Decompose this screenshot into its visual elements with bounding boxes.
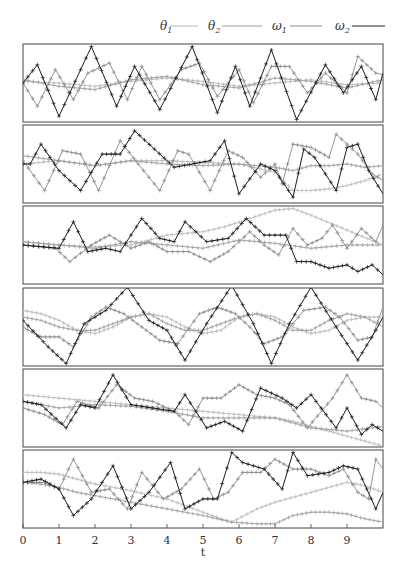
- panel-frame: [23, 288, 383, 366]
- x-tick-label: 6: [236, 534, 243, 547]
- x-tick-label: 3: [128, 534, 135, 547]
- panel-1: [21, 44, 383, 122]
- panel-3: [21, 206, 383, 284]
- x-tick-label: 0: [20, 534, 27, 547]
- figure: θ1θ2ω1ω2 0123456789t: [0, 0, 402, 572]
- legend-item-2: θ2: [208, 19, 262, 35]
- legend-label: θ1: [160, 19, 172, 35]
- x-tick-label: 2: [92, 534, 99, 547]
- x-axis-label: t: [201, 546, 206, 559]
- legend-item-3: ω1: [272, 19, 322, 35]
- panel-4: [21, 284, 383, 366]
- panel-frame: [23, 369, 383, 447]
- x-tick-label: 8: [308, 534, 315, 547]
- legend-label: ω2: [335, 19, 350, 35]
- x-tick-label: 4: [164, 534, 171, 547]
- legend: θ1θ2ω1ω2: [160, 19, 385, 35]
- x-tick-label: 1: [56, 534, 63, 547]
- legend-label: ω1: [272, 19, 287, 35]
- panel-2: [21, 125, 383, 203]
- panel-5: [21, 369, 383, 447]
- legend-item-4: ω2: [335, 19, 385, 35]
- x-tick-label: 9: [344, 534, 351, 547]
- panel-6: [21, 450, 383, 528]
- panels: [21, 44, 383, 528]
- legend-item-1: θ1: [160, 19, 198, 35]
- panel-frame: [23, 206, 383, 284]
- legend-label: θ2: [208, 19, 220, 35]
- x-tick-label: 7: [272, 534, 279, 547]
- x-axis: 0123456789t: [20, 524, 351, 559]
